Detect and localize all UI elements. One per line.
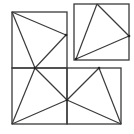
- seg-center-to-topmid: [67, 68, 99, 100]
- left-tall-rect-top: [12, 12, 67, 68]
- point-center: [66, 99, 69, 102]
- point-rightmid: [65, 34, 68, 37]
- point-small-bottomleft: [75, 58, 78, 61]
- point-small-right: [128, 35, 131, 38]
- seg-rightmid-to-crossing: [35, 35, 66, 68]
- small-top-right-square: [74, 4, 129, 60]
- rectangles-group: [12, 4, 129, 124]
- seg-crossing-to-center: [35, 68, 67, 100]
- point-crossing: [34, 67, 37, 70]
- left-tall-rect-bottom: [12, 68, 67, 124]
- segments-group: [12, 4, 129, 124]
- point-topmid: [98, 67, 101, 70]
- bottom-right-rect: [67, 68, 121, 124]
- seg-small-top-to-right: [97, 4, 129, 36]
- geometric-diagram: [0, 0, 134, 134]
